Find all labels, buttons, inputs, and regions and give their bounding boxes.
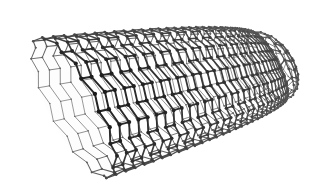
carbon-atom [260, 36, 262, 38]
carbon-atom [103, 174, 106, 177]
carbon-atom [155, 128, 159, 132]
nanotube-illustration [0, 0, 311, 196]
carbon-atom [81, 48, 85, 52]
carbon-atom [139, 42, 143, 46]
carbon-atom [275, 89, 278, 92]
carbon-atom [170, 108, 171, 109]
carbon-atom [208, 26, 210, 28]
carbon-atom [97, 127, 99, 129]
carbon-atom [219, 26, 221, 28]
carbon-atom [209, 84, 213, 88]
carbon-atom [231, 65, 234, 68]
carbon-atom [101, 46, 105, 50]
carbon-atom [197, 33, 199, 35]
carbon-atom [249, 42, 252, 45]
carbon-atom [126, 103, 130, 107]
carbon-atom [264, 99, 266, 101]
carbon-atom [129, 68, 133, 72]
carbon-atom [93, 92, 97, 96]
carbon-atom [77, 133, 79, 135]
carbon-atom [108, 125, 112, 129]
carbon-atom [198, 46, 201, 49]
carbon-atom [180, 42, 182, 44]
carbon-atom [172, 123, 176, 127]
carbon-atom [264, 59, 267, 62]
carbon-atom [291, 89, 293, 91]
carbon-atom [141, 82, 145, 86]
carbon-atom [158, 126, 160, 128]
carbon-atom [114, 56, 118, 60]
carbon-atom [217, 107, 219, 109]
carbon-atom [251, 115, 254, 118]
carbon-atom [257, 70, 258, 71]
carbon-atom [208, 138, 211, 141]
carbon-atom [149, 153, 152, 156]
carbon-atom [258, 105, 261, 108]
carbon-atom [140, 28, 143, 31]
carbon-atom [248, 106, 250, 108]
carbon-atom [225, 26, 227, 28]
carbon-atom [201, 26, 203, 28]
carbon-atom [133, 102, 134, 103]
carbon-atom [186, 63, 187, 64]
carbon-atom [249, 74, 250, 75]
carbon-bond [165, 112, 166, 127]
carbon-atom [38, 71, 40, 73]
carbon-atom [282, 103, 284, 105]
carbon-atom [172, 79, 173, 80]
carbon-atom [200, 100, 201, 101]
carbon-atom [177, 149, 180, 152]
carbon-atom [268, 59, 271, 62]
carbon-atom [205, 45, 208, 48]
carbon-atom [271, 90, 274, 93]
carbon-atom [49, 69, 51, 71]
carbon-atom [172, 108, 176, 112]
carbon-atom [111, 166, 115, 170]
carbon-atom [175, 144, 178, 147]
carbon-atom [93, 145, 95, 147]
carbon-atom [107, 107, 111, 111]
carbon-atom [127, 120, 131, 124]
carbon-atom [183, 47, 187, 51]
carbon-atom [228, 80, 229, 81]
carbon-bond [232, 94, 233, 106]
carbon-atom [97, 109, 101, 113]
carbon-atom [222, 81, 226, 85]
carbon-atom [245, 55, 246, 56]
carbon-atom [115, 154, 119, 158]
carbon-atom [167, 147, 170, 150]
carbon-atom [212, 69, 216, 73]
carbon-atom [74, 116, 75, 117]
carbon-atom [246, 47, 248, 49]
carbon-atom [103, 31, 106, 34]
nanotube-figure [0, 0, 311, 196]
carbon-atom [147, 41, 150, 44]
carbon-atom [281, 44, 283, 46]
carbon-atom [200, 141, 203, 144]
carbon-atom [165, 43, 167, 45]
carbon-atom [136, 118, 140, 122]
carbon-atom [219, 94, 220, 95]
carbon-atom [150, 81, 154, 85]
carbon-atom [119, 70, 123, 74]
carbon-atom [91, 171, 93, 173]
carbon-atom [245, 87, 246, 88]
carbon-atom [240, 42, 243, 45]
carbon-atom [41, 56, 43, 58]
carbon-atom [253, 107, 256, 110]
carbon-bond [225, 96, 226, 109]
carbon-atom [255, 32, 257, 34]
carbon-atom [133, 165, 136, 168]
carbon-atom [143, 145, 147, 149]
carbon-atom [193, 62, 194, 63]
carbon-atom [191, 30, 194, 33]
carbon-atom [235, 78, 238, 81]
carbon-atom [215, 33, 217, 35]
carbon-atom [182, 140, 184, 142]
carbon-atom [236, 27, 238, 29]
carbon-atom [279, 64, 282, 67]
carbon-atom [160, 32, 163, 35]
carbon-atom [273, 79, 276, 82]
carbon-atom [229, 116, 232, 119]
carbon-atom [66, 40, 70, 44]
